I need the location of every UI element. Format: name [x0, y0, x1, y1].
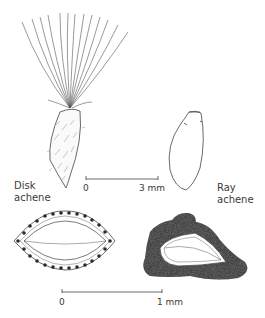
illustration-drawing	[0, 0, 265, 318]
pappus-bristles	[22, 13, 128, 108]
disk-achene-label-line1: Disk	[14, 180, 35, 192]
disk-achene-body	[47, 109, 85, 188]
ray-achene-body	[169, 111, 203, 190]
scale-3mm-start-label: 0	[83, 183, 89, 193]
scale-bar-3mm	[86, 176, 158, 180]
ray-achene-label-line1: Ray	[217, 182, 236, 194]
scale-1mm-end-label: 1 mm	[157, 297, 183, 307]
disk-achene-cross-section	[14, 211, 115, 270]
botanical-illustration: Disk achene Ray achene 0 3 mm 0 1 mm	[0, 0, 265, 318]
scale-3mm-end-label: 3 mm	[139, 183, 165, 193]
scale-bar-1mm	[62, 289, 162, 293]
disk-achene-label-line2: achene	[14, 192, 51, 204]
scale-1mm-start-label: 0	[59, 297, 65, 307]
ray-achene-cross-section	[143, 213, 247, 280]
ray-achene-label-line2: achene	[217, 194, 254, 206]
